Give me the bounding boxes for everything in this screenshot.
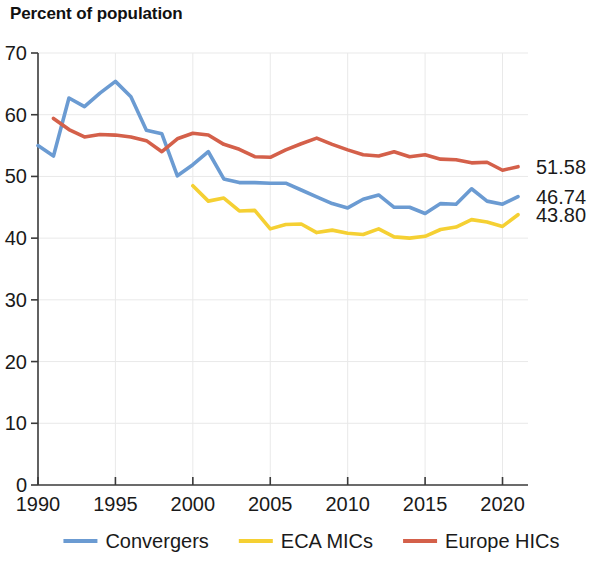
chart-axes xyxy=(38,53,528,485)
x-tick-label: 2010 xyxy=(325,493,370,515)
line-chart-plot: 010203040506070 199019952000200520102015… xyxy=(0,0,611,561)
legend-label-convergers: Convergers xyxy=(105,530,208,552)
y-tick-label: 60 xyxy=(5,104,27,126)
x-tick-label: 1990 xyxy=(16,493,61,515)
y-axis-tick-labels: 010203040506070 xyxy=(5,42,27,496)
y-tick-label: 70 xyxy=(5,42,27,64)
x-tick-label: 2005 xyxy=(248,493,293,515)
legend-label-europe-hics: Europe HICs xyxy=(445,530,560,552)
chart-container: Percent of population 010203040506070 19… xyxy=(0,0,611,561)
y-tick-label: 30 xyxy=(5,289,27,311)
x-tick-label: 2000 xyxy=(171,493,216,515)
end-label-europe-hics: 51.58 xyxy=(536,156,586,178)
x-axis-tick-labels: 1990199520002005201020152020 xyxy=(16,493,525,515)
series-lines xyxy=(38,81,518,238)
series-end-labels: 46.7443.8051.58 xyxy=(536,156,586,226)
x-tick-label: 1995 xyxy=(93,493,138,515)
y-tick-label: 40 xyxy=(5,227,27,249)
y-gridlines xyxy=(38,53,528,423)
end-label-eca-mics: 43.80 xyxy=(536,204,586,226)
x-tick-label: 2020 xyxy=(480,493,525,515)
y-tick-label: 10 xyxy=(5,412,27,434)
x-axis-ticks xyxy=(38,477,503,485)
y-tick-label: 20 xyxy=(5,351,27,373)
y-axis-ticks xyxy=(31,53,38,485)
x-tick-label: 2015 xyxy=(403,493,448,515)
x-gridlines xyxy=(115,53,502,485)
y-tick-label: 50 xyxy=(5,165,27,187)
legend-label-eca-mics: ECA MICs xyxy=(281,530,373,552)
series-line-convergers xyxy=(38,81,518,213)
chart-legend: ConvergersECA MICsEurope HICs xyxy=(63,530,559,552)
series-line-europe-hics xyxy=(53,118,518,170)
